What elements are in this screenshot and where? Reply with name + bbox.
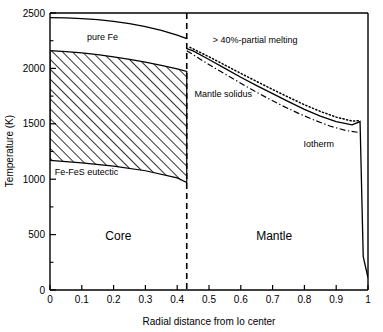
annotation-iotherm: Iotherm: [303, 139, 334, 149]
x-tick-label: 0.5: [202, 294, 216, 305]
annotation-fe-fes-eutectic: Fe-FeS eutectic: [55, 167, 119, 177]
annotation-core: Core: [105, 229, 131, 243]
annotation-pure-fe: pure Fe: [87, 32, 118, 42]
y-tick-label: 1500: [23, 118, 46, 129]
annotation-40-partial-melting: > 40%-partial melting: [213, 35, 298, 45]
x-tick-label: 0.1: [75, 294, 89, 305]
x-tick-label: 0.2: [107, 294, 121, 305]
y-tick-label: 2500: [23, 8, 46, 19]
x-tick-label: 0.9: [329, 294, 343, 305]
chart-figure: 00.10.20.30.40.50.60.70.80.9105001000150…: [0, 0, 383, 332]
y-tick-label: 0: [39, 285, 45, 296]
x-tick-label: 0.8: [297, 294, 311, 305]
y-axis-title: Temperature (K): [4, 115, 15, 187]
annotation-mantle-solidus: Mantle solidus: [195, 89, 253, 99]
annotation-mantle: Mantle: [256, 229, 292, 243]
x-tick-label: 1: [365, 294, 371, 305]
temperature-profile-chart: 00.10.20.30.40.50.60.70.80.9105001000150…: [0, 0, 383, 332]
y-tick-label: 2000: [23, 63, 46, 74]
x-tick-label: 0.3: [138, 294, 152, 305]
y-tick-label: 1000: [23, 174, 46, 185]
y-tick-label: 500: [28, 229, 45, 240]
x-axis-title: Radial distance from Io center: [143, 316, 277, 327]
x-tick-label: 0: [47, 294, 53, 305]
x-tick-label: 0.6: [234, 294, 248, 305]
x-tick-label: 0.7: [266, 294, 280, 305]
x-tick-label: 0.4: [170, 294, 184, 305]
